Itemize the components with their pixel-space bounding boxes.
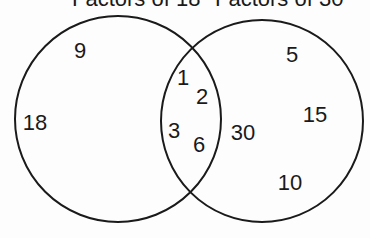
value-18: 18: [23, 112, 47, 134]
value-9: 9: [74, 40, 86, 62]
value-10: 10: [278, 172, 302, 194]
value-15: 15: [303, 104, 327, 126]
value-2: 2: [196, 86, 208, 108]
value-3: 3: [168, 120, 180, 142]
value-6: 6: [193, 134, 205, 156]
value-5: 5: [286, 44, 298, 66]
value-30: 30: [231, 122, 255, 144]
value-1: 1: [177, 67, 189, 89]
venn-diagram: Factors of 18 Factors of 30 9 18 1 2 3 6…: [0, 0, 370, 238]
